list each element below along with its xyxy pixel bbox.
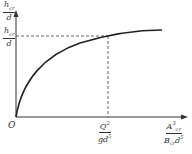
origin-label: O	[8, 121, 15, 130]
x-axis-label-den-sup: 5	[180, 134, 183, 140]
y-mark-label-sub: cr	[9, 31, 14, 37]
x-axis-arrow-icon	[181, 115, 188, 120]
x-axis-label-sub: cr	[176, 126, 181, 132]
y-mark-label-den: d	[7, 39, 12, 48]
y-axis-label-den: d	[7, 13, 12, 22]
x-mark-label: Q2 gd5	[98, 121, 111, 143]
x-axis-label: A3cr Bcrd5	[164, 121, 183, 147]
x-mark-label-sup: 2	[106, 120, 109, 126]
y-mark-label: hcr d	[3, 27, 15, 48]
y-axis-label: hcr d	[3, 1, 15, 22]
x-mark-label-den: gd	[98, 134, 108, 143]
y-axis-label-sub: cr	[9, 5, 14, 11]
x-mark-label-den-sup: 5	[108, 133, 111, 139]
curve	[16, 30, 162, 117]
